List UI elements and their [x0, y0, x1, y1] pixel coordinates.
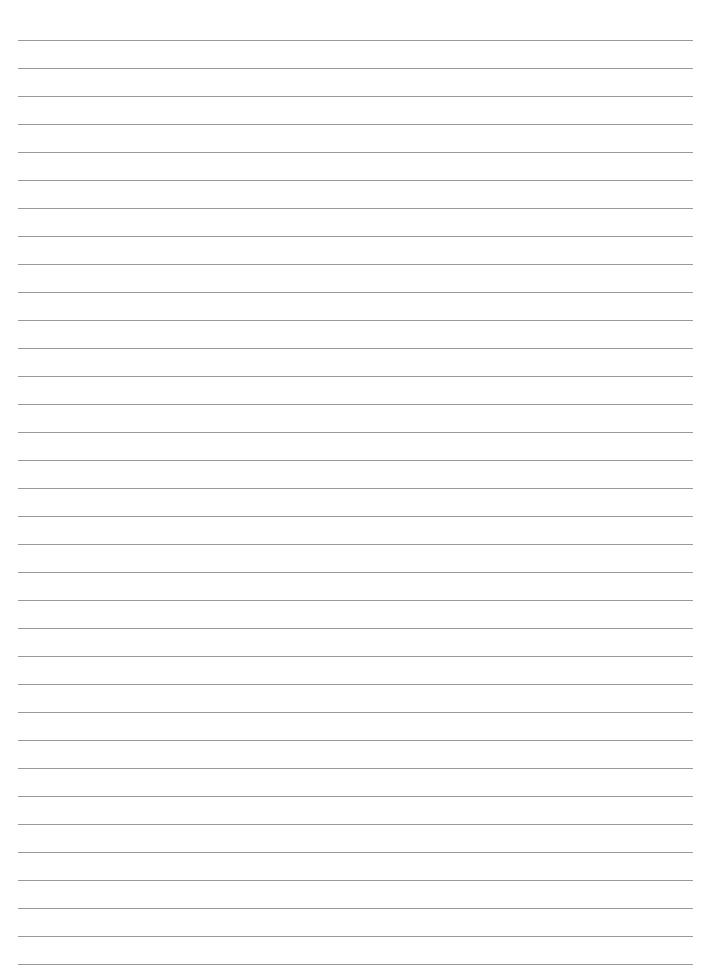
ruled-line [18, 600, 693, 601]
ruled-line [18, 96, 693, 97]
ruled-line [18, 516, 693, 517]
ruled-line [18, 964, 693, 965]
ruled-line [18, 852, 693, 853]
ruled-line [18, 460, 693, 461]
ruled-line [18, 488, 693, 489]
ruled-line [18, 796, 693, 797]
ruled-line [18, 152, 693, 153]
ruled-line [18, 236, 693, 237]
ruled-line [18, 208, 693, 209]
ruled-line [18, 320, 693, 321]
ruled-line [18, 740, 693, 741]
ruled-line [18, 908, 693, 909]
ruled-line [18, 432, 693, 433]
ruled-line [18, 768, 693, 769]
ruled-line [18, 264, 693, 265]
ruled-line [18, 124, 693, 125]
ruled-line [18, 180, 693, 181]
ruled-line [18, 348, 693, 349]
ruled-line [18, 712, 693, 713]
ruled-line [18, 376, 693, 377]
ruled-line [18, 544, 693, 545]
lined-paper-page [0, 0, 712, 975]
ruled-line [18, 656, 693, 657]
ruled-line [18, 628, 693, 629]
ruled-line [18, 572, 693, 573]
ruled-line [18, 40, 693, 41]
ruled-line [18, 936, 693, 937]
ruled-line [18, 68, 693, 69]
ruled-line [18, 824, 693, 825]
ruled-line [18, 292, 693, 293]
ruled-line [18, 880, 693, 881]
ruled-line [18, 684, 693, 685]
ruled-line [18, 404, 693, 405]
